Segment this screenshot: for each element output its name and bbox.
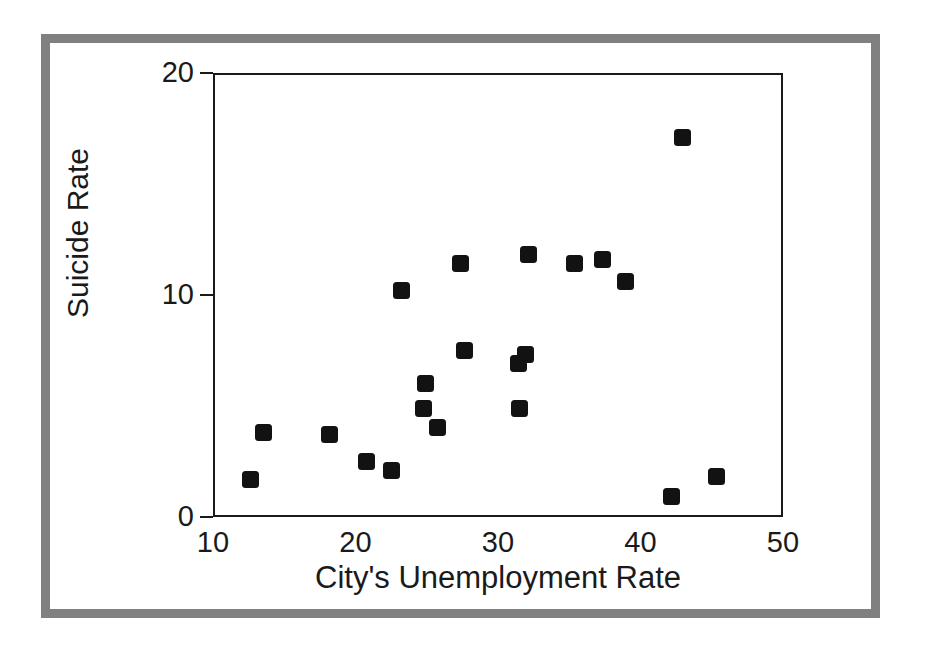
scatter-point — [242, 471, 259, 488]
scatter-point — [511, 400, 528, 417]
y-axis-tick — [200, 516, 213, 519]
scatter-point — [663, 488, 680, 505]
y-axis-title: Suicide Rate — [61, 83, 95, 383]
y-axis-tick — [200, 72, 213, 75]
x-axis-tick-label: 20 — [311, 528, 401, 557]
x-axis-tick-label: 50 — [738, 528, 828, 557]
scatter-point — [321, 426, 338, 443]
scatter-point — [566, 255, 583, 272]
scatter-point — [383, 462, 400, 479]
x-axis-tick-label: 30 — [453, 528, 543, 557]
scatter-point — [255, 424, 272, 441]
y-axis-tick-labels: 20100 — [114, 0, 194, 656]
scatter-point — [393, 282, 410, 299]
scatter-point — [520, 246, 537, 263]
y-axis-tick-label: 20 — [134, 58, 194, 87]
scatter-point — [708, 468, 725, 485]
y-axis-tick-label: 0 — [134, 502, 194, 531]
scatter-point — [358, 453, 375, 470]
x-axis-tick-label: 40 — [596, 528, 686, 557]
scatter-point — [429, 419, 446, 436]
scatter-point — [674, 129, 691, 146]
scatter-point — [415, 400, 432, 417]
plot-area — [213, 73, 783, 517]
y-axis-tick-label: 10 — [134, 280, 194, 309]
figure-root: 20100 Suicide Rate 1020304050 City's Une… — [0, 0, 929, 656]
x-axis-tick-label: 10 — [168, 528, 258, 557]
y-axis-tick — [200, 294, 213, 297]
scatter-point — [617, 273, 634, 290]
scatter-point — [594, 251, 611, 268]
scatter-point — [452, 255, 469, 272]
x-axis-title: City's Unemployment Rate — [213, 560, 783, 596]
scatter-point — [456, 342, 473, 359]
scatter-point — [417, 375, 434, 392]
scatter-point — [517, 346, 534, 363]
